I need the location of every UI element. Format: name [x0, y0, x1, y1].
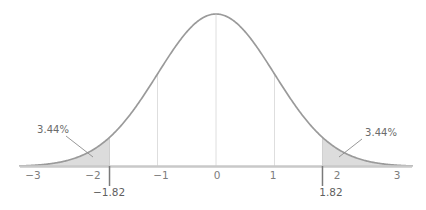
tick-label-neg2: −2	[85, 169, 100, 181]
chart-canvas: −3 −2 −1 0 1 2 3 −1.82 1.82 3.44% 3.44%	[0, 0, 426, 210]
normal-distribution-chart: −3 −2 −1 0 1 2 3 −1.82 1.82 3.44% 3.44%	[0, 0, 426, 210]
right-tail-shaded-region	[322, 137, 412, 166]
gridlines	[157, 14, 274, 166]
tick-label-neg1: −1	[153, 169, 168, 181]
tick-label-2: 2	[334, 169, 341, 181]
tick-label-3: 3	[394, 169, 401, 181]
critical-value-label-left: −1.82	[93, 186, 125, 198]
critical-value-label-right: 1.82	[319, 186, 342, 198]
tick-label-0: 0	[214, 169, 221, 181]
left-tail-percent-label: 3.44%	[37, 124, 69, 135]
right-callout-leader-line	[339, 139, 362, 157]
tick-label-neg3: −3	[25, 169, 40, 181]
tick-label-1: 1	[270, 169, 277, 181]
left-tail-shaded-region	[20, 137, 110, 166]
left-callout-leader-line	[66, 136, 93, 157]
right-tail-percent-label: 3.44%	[365, 127, 397, 138]
